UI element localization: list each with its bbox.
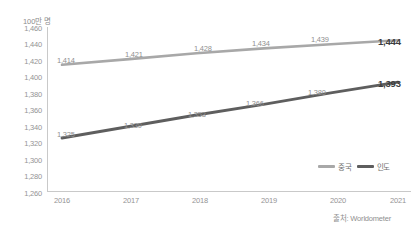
data-label-india-2017: 1,339 bbox=[124, 121, 142, 130]
x-tick-label: 2020 bbox=[320, 196, 356, 205]
series-lines bbox=[62, 40, 398, 138]
data-label-china-2019: 1,434 bbox=[252, 39, 270, 48]
legend-swatch-india-icon bbox=[357, 165, 374, 168]
y-tick-label: 1,340 bbox=[10, 123, 42, 132]
legend-item-india[interactable]: 인도 bbox=[357, 161, 391, 172]
y-tick-label: 1,460 bbox=[10, 24, 42, 33]
data-label-india-2016: 1,325 bbox=[57, 130, 75, 139]
y-tick-label: 1,320 bbox=[10, 139, 42, 148]
data-label-china-2021: 1,444 bbox=[378, 36, 401, 47]
legend-label-china: 중국 bbox=[338, 161, 352, 172]
data-label-india-2020: 1,380 bbox=[308, 88, 326, 97]
y-tick-label: 1,420 bbox=[10, 57, 42, 66]
y-tick-label: 1,260 bbox=[10, 189, 42, 198]
source-note: 출처: Worldometer bbox=[333, 212, 391, 223]
data-label-india-2018: 1,353 bbox=[188, 110, 206, 119]
y-tick-label: 1,400 bbox=[10, 73, 42, 82]
y-tick-label: 1,440 bbox=[10, 40, 42, 49]
series-line-china bbox=[62, 40, 398, 65]
legend-swatch-china-icon bbox=[318, 165, 335, 168]
x-tick-label: 2018 bbox=[182, 196, 218, 205]
data-label-india-2019: 1,366 bbox=[246, 99, 264, 108]
series-line-india bbox=[62, 82, 398, 138]
y-tick-label: 1,280 bbox=[10, 172, 42, 181]
data-label-china-2020: 1,439 bbox=[311, 35, 329, 44]
data-label-india-2021: 1,393 bbox=[378, 78, 401, 89]
data-label-china-2017: 1,421 bbox=[125, 50, 143, 59]
line-chart: 100만 명 1,460 1,440 1,420 1,400 1,380 1,3… bbox=[0, 0, 420, 231]
legend-item-china[interactable]: 중국 bbox=[318, 161, 352, 172]
y-tick-label: 1,380 bbox=[10, 90, 42, 99]
y-tick-label: 1,300 bbox=[10, 156, 42, 165]
x-tick-label: 2016 bbox=[44, 196, 80, 205]
y-tick-label: 1,360 bbox=[10, 106, 42, 115]
x-tick-label: 2019 bbox=[251, 196, 287, 205]
x-tick-label: 2021 bbox=[380, 196, 416, 205]
data-label-china-2018: 1,428 bbox=[194, 44, 212, 53]
data-label-china-2016: 1,414 bbox=[57, 56, 75, 65]
legend: 중국 인도 bbox=[318, 161, 390, 172]
legend-label-india: 인도 bbox=[377, 161, 391, 172]
x-tick-label: 2017 bbox=[113, 196, 149, 205]
